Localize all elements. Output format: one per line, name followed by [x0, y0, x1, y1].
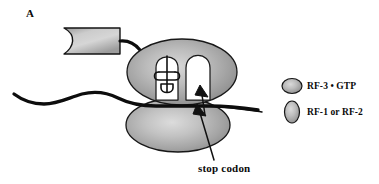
legend-item-rf3-gtp: RF-3 • GTP — [282, 79, 356, 94]
figure-panel-a: A — [0, 0, 379, 184]
legend-label-rf1-rf2: RF-1 or RF-2 — [307, 107, 363, 117]
legend-marker-horizontal-ellipse-icon — [282, 79, 302, 94]
legend-item-rf1-rf2: RF-1 or RF-2 — [285, 101, 364, 123]
stop-codon-label: stop codon — [198, 162, 250, 174]
termination-diagram-canvas: A — [0, 0, 379, 184]
legend-marker-vertical-ellipse-icon — [285, 101, 300, 123]
panel-label: A — [26, 7, 34, 19]
polypeptide-box-shape — [64, 28, 120, 54]
legend: RF-3 • GTP RF-1 or RF-2 — [282, 79, 363, 124]
large-ribosomal-subunit — [127, 39, 237, 105]
legend-label-rf3-gtp: RF-3 • GTP — [307, 81, 356, 91]
nascent-polypeptide-box — [64, 28, 120, 54]
